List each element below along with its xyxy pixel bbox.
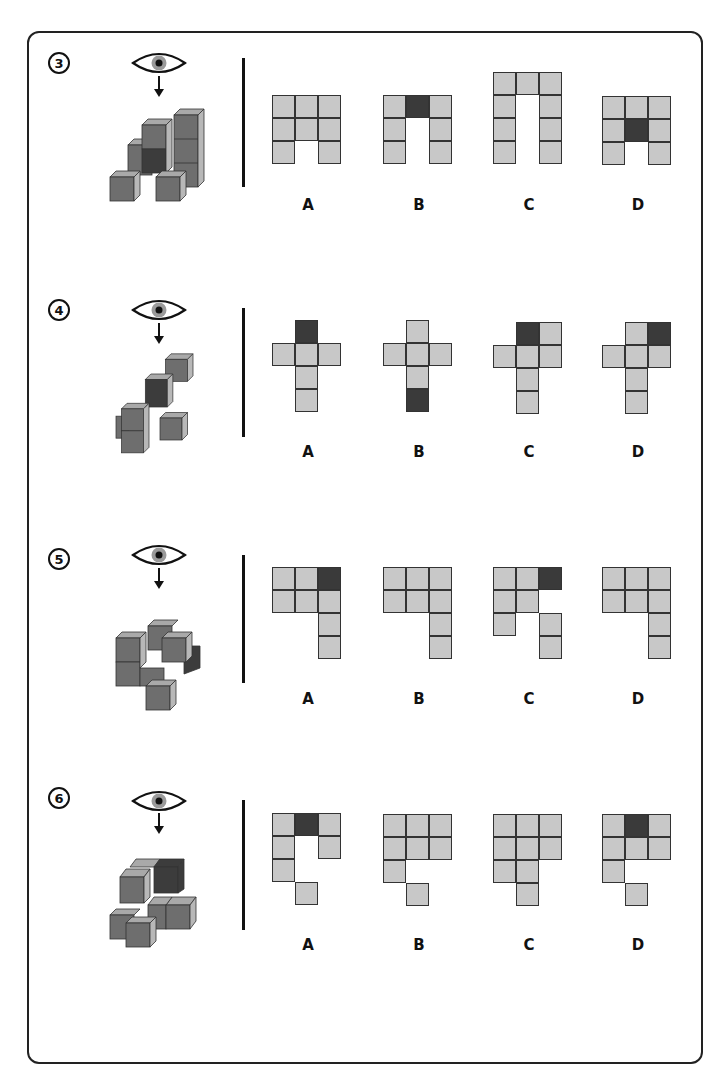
net-cell <box>516 814 539 837</box>
arrow-down-icon <box>152 76 166 98</box>
option-a[interactable] <box>272 320 344 412</box>
cube-structure-3d <box>100 853 220 963</box>
net-cell <box>625 345 648 368</box>
divider <box>242 555 245 683</box>
puzzle-number: 6 <box>48 787 70 809</box>
option-d[interactable] <box>602 322 674 414</box>
net-cell <box>648 837 671 860</box>
net-cell <box>383 837 406 860</box>
option-label-d: D <box>602 936 674 954</box>
net-cell <box>539 814 562 837</box>
net-cell <box>318 343 341 366</box>
net-cell <box>648 142 671 165</box>
net-cell <box>429 141 452 164</box>
net-cell <box>539 322 562 345</box>
option-label-c: C <box>493 196 565 214</box>
net-cell <box>272 343 295 366</box>
net-cell-dark <box>406 389 429 412</box>
net-cell <box>493 613 516 636</box>
net-cell <box>295 95 318 118</box>
option-label-d: D <box>602 690 674 708</box>
net-cell <box>429 567 452 590</box>
option-label-a: A <box>272 196 344 214</box>
net-cell <box>406 343 429 366</box>
net-cell <box>429 636 452 659</box>
arrow-down-icon <box>152 568 166 590</box>
option-b[interactable] <box>383 814 455 906</box>
option-c[interactable] <box>493 72 565 164</box>
option-label-b: B <box>383 690 455 708</box>
net-cell <box>295 567 318 590</box>
net-cell-dark <box>406 95 429 118</box>
eye-icon <box>131 543 187 567</box>
net-cell <box>429 837 452 860</box>
net-cell <box>602 837 625 860</box>
net-cell <box>493 118 516 141</box>
net-cell <box>539 837 562 860</box>
net-cell <box>602 590 625 613</box>
option-label-c: C <box>493 690 565 708</box>
net-cell <box>429 613 452 636</box>
net-cell <box>383 590 406 613</box>
option-c[interactable] <box>493 814 565 906</box>
option-a[interactable] <box>272 95 344 164</box>
option-a[interactable] <box>272 567 344 659</box>
net-cell-dark <box>295 320 318 343</box>
option-label-a: A <box>272 443 344 461</box>
option-d[interactable] <box>602 814 674 906</box>
option-b[interactable] <box>383 567 455 659</box>
puzzle-3: 3 <box>0 40 726 280</box>
net-cell <box>648 119 671 142</box>
net-cell <box>383 814 406 837</box>
net-cell <box>493 95 516 118</box>
net-cell <box>272 141 295 164</box>
net-cell <box>295 590 318 613</box>
net-cell <box>383 860 406 883</box>
net-cell <box>493 345 516 368</box>
net-cell <box>318 590 341 613</box>
net-cell <box>295 366 318 389</box>
net-cell <box>516 860 539 883</box>
net-cell <box>625 590 648 613</box>
net-cell <box>272 813 295 836</box>
option-c[interactable] <box>493 567 565 659</box>
net-cell <box>539 141 562 164</box>
net-cell <box>406 837 429 860</box>
option-d[interactable] <box>602 567 674 659</box>
puzzle-number: 4 <box>48 299 70 321</box>
net-cell <box>318 813 341 836</box>
cube-structure-3d <box>100 606 220 716</box>
net-cell <box>648 613 671 636</box>
net-cell <box>516 567 539 590</box>
net-cell-dark <box>625 119 648 142</box>
option-d[interactable] <box>602 96 674 165</box>
net-cell <box>318 613 341 636</box>
net-cell <box>493 590 516 613</box>
net-cell <box>539 636 562 659</box>
net-cell <box>602 814 625 837</box>
net-cell <box>272 590 295 613</box>
net-cell <box>406 883 429 906</box>
net-cell <box>516 590 539 613</box>
net-cell <box>295 389 318 412</box>
net-cell <box>625 883 648 906</box>
net-cell-dark <box>318 567 341 590</box>
option-label-b: B <box>383 196 455 214</box>
option-label-b: B <box>383 936 455 954</box>
option-c[interactable] <box>493 322 565 414</box>
option-a[interactable] <box>272 813 344 905</box>
net-cell <box>602 860 625 883</box>
net-cell <box>493 567 516 590</box>
net-cell <box>406 320 429 343</box>
arrow-down-icon <box>152 323 166 345</box>
net-cell <box>648 96 671 119</box>
net-cell <box>272 859 295 882</box>
option-b[interactable] <box>383 95 455 164</box>
net-cell <box>429 118 452 141</box>
net-cell <box>429 95 452 118</box>
option-b[interactable] <box>383 320 455 412</box>
net-cell <box>493 72 516 95</box>
puzzle-number: 5 <box>48 548 70 570</box>
net-cell <box>406 814 429 837</box>
net-cell <box>539 613 562 636</box>
